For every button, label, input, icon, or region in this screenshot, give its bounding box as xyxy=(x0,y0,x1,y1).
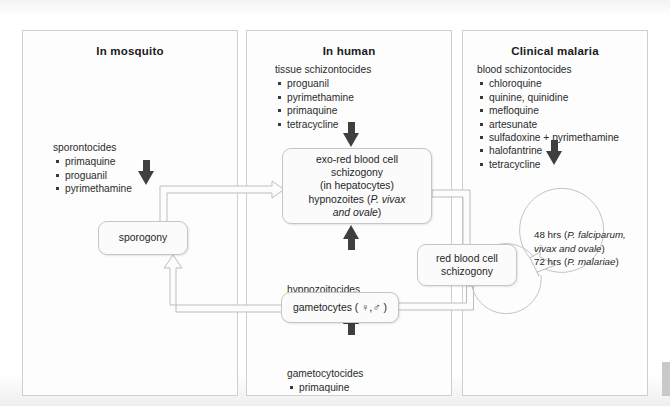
cycle-line-1: 48 hrs (P. falciparum, xyxy=(534,228,652,242)
exo-line-3: (in hepatocytes) xyxy=(320,179,394,192)
diagram-page: In mosquito sporontocides primaquine pro… xyxy=(0,0,670,406)
rbc-line-1: red blood cell xyxy=(436,252,498,265)
arrow-gametocytes-to-sporogony xyxy=(164,255,282,312)
exo-line-1: exo-red blood cell xyxy=(316,153,398,166)
node-gametocytes[interactable]: gametocytes ( ♀,♂ ) xyxy=(281,292,399,323)
exo-line-4: hypnozoites (P. vivax xyxy=(309,193,406,206)
cycle-line-2: vivax and ovale) xyxy=(534,242,652,256)
node-red-blood-cell-schizogony[interactable]: red blood cell schizogony xyxy=(417,244,517,286)
rbc-line-2: schizogony xyxy=(441,265,493,278)
node-exo-red-blood-cell-schizogony[interactable]: exo-red blood cell schizogony (in hepato… xyxy=(282,148,432,224)
node-sporogony[interactable]: sporogony xyxy=(98,221,188,255)
gametocytes-label: gametocytes ( ♀,♂ ) xyxy=(293,301,387,314)
node-sporogony-label: sporogony xyxy=(119,231,168,244)
exo-line-2: schizogony xyxy=(331,166,383,179)
arrow-sporogony-to-exo xyxy=(160,181,284,222)
cycle-duration-label: 48 hrs (P. falciparum, vivax and ovale) … xyxy=(534,228,652,269)
exo-line-5: and ovale) xyxy=(333,206,382,219)
cycle-line-3: 72 hrs (P. malariae) xyxy=(534,255,652,269)
